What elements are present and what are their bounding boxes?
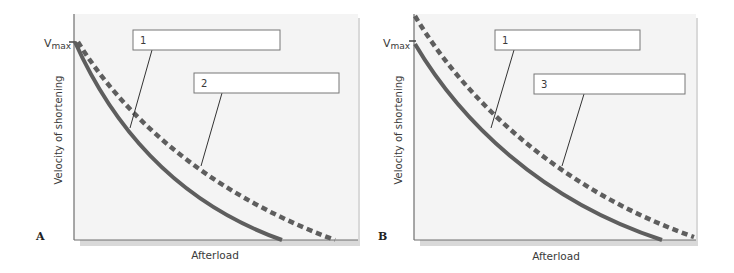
label-box-1	[133, 30, 280, 50]
y-axis-label: Velocity of shortening	[393, 76, 404, 185]
label-box-1-text: 1	[140, 35, 146, 46]
vmax-label: Vmax	[44, 37, 72, 51]
label-box-2-text: 2	[201, 78, 207, 89]
label-box-1	[495, 30, 640, 50]
panel-letter: A	[35, 230, 45, 243]
y-axis-label: Velocity of shortening	[53, 76, 64, 185]
figure: Vmax 1 2 Velocity of shortening Afterloa…	[0, 0, 734, 273]
x-axis-label: Afterload	[191, 249, 239, 261]
label-box-3-text: 3	[541, 79, 547, 90]
x-axis-label: Afterload	[532, 250, 580, 262]
label-box-3	[534, 74, 685, 94]
panel-b: Vmax 1 3 Velocity of shortening Afterloa…	[378, 14, 698, 262]
panel-letter: B	[378, 230, 387, 243]
panel-a: Vmax 1 2 Velocity of shortening Afterloa…	[35, 14, 360, 261]
label-box-1-text: 1	[502, 35, 508, 46]
label-box-2	[194, 73, 339, 93]
vmax-label: Vmax	[383, 37, 411, 51]
